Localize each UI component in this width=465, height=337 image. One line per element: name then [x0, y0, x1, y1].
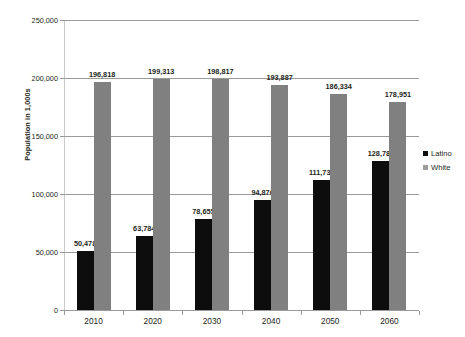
- y-tick-mark: [60, 78, 64, 79]
- bar-latino-2030[interactable]: [195, 219, 212, 310]
- legend-label: Latino: [431, 149, 452, 158]
- bar-group: [313, 20, 347, 310]
- legend-item-white[interactable]: White: [423, 162, 465, 172]
- chart-legend: LatinoWhite: [423, 148, 465, 176]
- gridline: [64, 252, 419, 253]
- gridline: [64, 194, 419, 195]
- bar-white-2020[interactable]: [153, 79, 170, 310]
- legend-label: White: [431, 163, 450, 172]
- x-tick-label-2050: 2050: [321, 316, 339, 326]
- x-tick-mark: [301, 311, 302, 315]
- y-tick-label: 250,000: [14, 16, 58, 25]
- bar-chart: Population in 1,000s 050,000100,000150,0…: [0, 0, 465, 337]
- bar-latino-2060[interactable]: [372, 161, 389, 310]
- bar-white-2030[interactable]: [212, 79, 229, 310]
- legend-swatch-icon: [423, 165, 428, 170]
- y-tick-label: 0: [14, 306, 58, 315]
- bar-white-2040[interactable]: [271, 85, 288, 310]
- y-axis-tick-labels: 050,000100,000150,000200,000250,000: [8, 0, 58, 337]
- bar-group: [372, 20, 406, 310]
- y-tick-label: 200,000: [14, 74, 58, 83]
- x-tick-mark: [64, 311, 65, 315]
- x-tick-mark: [419, 311, 420, 315]
- y-tick-label: 150,000: [14, 132, 58, 141]
- bar-group: [77, 20, 111, 310]
- legend-item-latino[interactable]: Latino: [423, 148, 465, 158]
- legend-swatch-icon: [423, 151, 428, 156]
- y-tick-mark: [60, 20, 64, 21]
- plot-area: 50,478196,81863,784199,31378,655198,8179…: [64, 20, 419, 310]
- x-tick-label-2030: 2030: [203, 316, 221, 326]
- bar-latino-2040[interactable]: [254, 200, 271, 310]
- x-tick-mark: [123, 311, 124, 315]
- x-tick-label-2010: 2010: [84, 316, 102, 326]
- bar-white-2060[interactable]: [389, 102, 406, 310]
- x-tick-mark: [360, 311, 361, 315]
- bar-group: [136, 20, 170, 310]
- x-tick-label-2060: 2060: [380, 316, 398, 326]
- y-tick-label: 100,000: [14, 190, 58, 199]
- bar-latino-2020[interactable]: [136, 236, 153, 310]
- bar-latino-2010[interactable]: [77, 251, 94, 310]
- bar-group: [254, 20, 288, 310]
- gridline: [64, 78, 419, 79]
- x-tick-label-2040: 2040: [262, 316, 280, 326]
- bar-latino-2050[interactable]: [313, 180, 330, 310]
- bar-white-2050[interactable]: [330, 94, 347, 310]
- y-tick-mark: [60, 136, 64, 137]
- y-tick-label: 50,000: [14, 248, 58, 257]
- bar-white-2010[interactable]: [94, 82, 111, 310]
- bar-group: [195, 20, 229, 310]
- x-tick-mark: [182, 311, 183, 315]
- x-tick-mark: [242, 311, 243, 315]
- gridline: [64, 136, 419, 137]
- gridline: [64, 20, 419, 21]
- x-tick-label-2020: 2020: [144, 316, 162, 326]
- y-tick-mark: [60, 252, 64, 253]
- y-tick-mark: [60, 194, 64, 195]
